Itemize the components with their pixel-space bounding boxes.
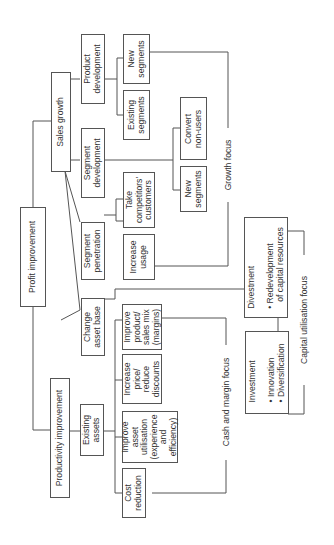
node-sales-growth: Sales growth <box>51 72 71 172</box>
node-convert-non-users: Convert non-users <box>180 97 207 160</box>
label-cash-margin-focus: Cash and margin focus <box>221 355 231 449</box>
node-product-development: Product development <box>81 34 105 104</box>
node-improve-asset-utilisation: Improve asset utilisation (experience an… <box>122 411 178 463</box>
node-profit-improvement: Profit improvement <box>20 207 46 307</box>
node-segment-penetration: Segment penetration <box>81 222 105 280</box>
profit-improvement-diagram: Profit improvement Sales growth Producti… <box>0 0 334 545</box>
node-increase-usage: Increase usage <box>123 234 155 280</box>
node-improve-product-mix: Improve product/ sales mix (margins) <box>122 304 162 350</box>
node-take-competitors-customers: Take competitors' customers <box>123 172 155 228</box>
node-new-segments-development: New segments <box>180 166 207 212</box>
label-growth-focus: Growth focus <box>223 137 233 194</box>
node-existing-assets: Existing assets <box>80 404 104 456</box>
node-increase-price: Increase price/ reduce discounts <box>122 354 162 404</box>
label-capital-utilisation-focus: Capital utilisation focus <box>299 273 309 367</box>
node-productivity-improvement: Productivity improvement <box>50 378 70 498</box>
node-new-segments-product: New segments <box>123 34 150 84</box>
node-investment: Investment • Innovation • Diversificatio… <box>245 331 289 414</box>
node-cost-reduction: Cost reduction <box>122 468 146 518</box>
node-existing-segments: Existing segments <box>123 90 150 140</box>
node-change-asset-base: Change asset base <box>81 298 105 356</box>
node-segment-development: Segment development <box>81 128 105 198</box>
node-divestment: Divestment • Redevelopment of capital re… <box>244 217 288 318</box>
